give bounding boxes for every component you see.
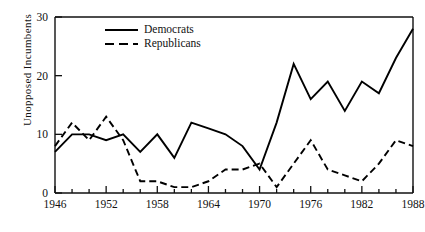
y-tick-label: 30 — [20, 11, 48, 23]
x-tick-label: 1958 — [146, 198, 169, 210]
x-tick-label: 1970 — [248, 198, 271, 210]
x-tick-label: 1946 — [44, 198, 67, 210]
x-tick-label: 1976 — [299, 198, 322, 210]
legend-label-democrats: Democrats — [144, 23, 194, 35]
y-tick-label: 20 — [20, 70, 48, 82]
x-tick-label: 1952 — [95, 198, 118, 210]
x-tick-label: 1988 — [402, 198, 425, 210]
y-tick-label: 10 — [20, 128, 48, 140]
series-line-democrats — [55, 29, 413, 170]
chart-container: Unopposed Incumbents 0102030 19461952195… — [0, 0, 425, 232]
series-line-republicans — [55, 117, 413, 187]
y-tick-marks — [55, 17, 62, 193]
x-tick-label: 1964 — [197, 198, 220, 210]
x-tick-marks — [55, 186, 413, 193]
legend-label-republicans: Republicans — [144, 37, 201, 49]
legend-swatches — [105, 30, 138, 44]
x-tick-label: 1982 — [350, 198, 373, 210]
